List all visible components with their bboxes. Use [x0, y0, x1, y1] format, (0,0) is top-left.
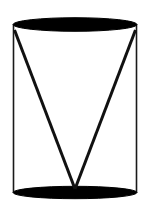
cylinder-cone-diagram [0, 0, 149, 212]
diagram-background [0, 0, 149, 212]
top-rim-ellipse [13, 18, 137, 32]
figure-canvas: Cone inscribed in cylinder top ellipse r… [0, 0, 149, 212]
